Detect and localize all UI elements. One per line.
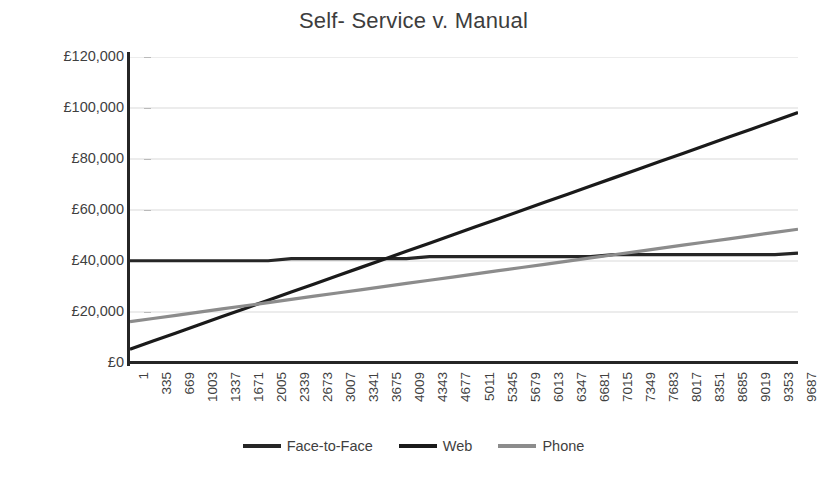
x-axis-tick-label-text: 7015 [621,372,634,402]
x-axis-tick-label-text: 9687 [805,372,818,402]
x-axis-tick-label: 6013 [552,370,565,400]
x-axis-tick-label-text: 1 [137,372,150,380]
x-axis-tick-label: 4343 [436,370,449,400]
x-axis-tick-label: 335 [160,370,173,393]
x-axis-tick-label: 9353 [782,370,795,400]
x-axis-tick-label: 8351 [713,370,726,400]
y-axis-tick-label: £80,000 [20,150,124,166]
x-axis-tick-label-text: 335 [160,372,173,395]
x-axis-tick-label-text: 3007 [344,372,357,402]
x-axis-tick-label: 9687 [805,370,818,400]
legend-label: Phone [542,438,584,454]
x-axis-tick-labels: 1335669100313371671200523392673300733413… [130,366,800,436]
x-axis-tick-label: 3675 [390,370,403,400]
x-axis-tick-label: 8017 [690,370,703,400]
x-axis-tick-label: 7683 [667,370,680,400]
x-axis-tick-label-text: 6013 [552,372,565,402]
x-axis-line [128,361,798,364]
x-axis-tick-label-text: 1337 [229,372,242,402]
y-axis-tick-label: £0 [20,354,124,370]
legend-item[interactable]: Face-to-Face [243,438,373,454]
y-axis-tick-label: £60,000 [20,201,124,217]
x-axis-tick-label-text: 8685 [736,372,749,402]
chart-title: Self- Service v. Manual [0,8,827,34]
y-axis-tick-label: £20,000 [20,303,124,319]
legend-swatch-icon [399,444,437,448]
y-axis-tick-label: £40,000 [20,252,124,268]
x-axis-tick-label-text: 6347 [575,372,588,402]
x-axis-tick-label-text: 7683 [667,372,680,402]
x-axis-tick-label-text: 9019 [759,372,772,402]
x-axis-tick-label: 2005 [275,370,288,400]
x-axis-tick-label: 7015 [621,370,634,400]
x-axis-tick-label-text: 3675 [390,372,403,402]
x-axis-tick-label-text: 1671 [252,372,265,402]
x-axis-tick-label: 4677 [459,370,472,400]
x-axis-tick-label: 5345 [506,370,519,400]
x-axis-tick-label-text: 2005 [275,372,288,402]
x-axis-tick-label: 2673 [321,370,334,400]
x-axis-tick-label-text: 3341 [367,372,380,402]
x-axis-tick-label-text: 4677 [459,372,472,402]
legend-swatch-icon [498,444,536,448]
x-axis-tick-label: 6347 [575,370,588,400]
x-axis-tick-label-text: 1003 [206,372,219,402]
series-line-face-to-face [130,253,798,261]
x-axis-tick-label: 1 [137,370,150,378]
x-axis-tick-label: 6681 [598,370,611,400]
legend-label: Web [443,438,473,454]
x-axis-tick-label-text: 4343 [436,372,449,402]
x-axis-tick-label-text: 6681 [598,372,611,402]
x-axis-tick-label: 1003 [206,370,219,400]
legend-item[interactable]: Phone [498,438,584,454]
x-axis-tick-label: 2339 [298,370,311,400]
x-axis-tick-label-text: 7349 [644,372,657,402]
x-axis-tick-label: 1337 [229,370,242,400]
x-axis-tick-label: 669 [183,370,196,393]
x-axis-tick-label-text: 9353 [782,372,795,402]
y-axis-tick-labels: £0£20,000£40,000£60,000£80,000£100,000£1… [20,0,124,486]
y-axis-tick-label: £120,000 [20,48,124,64]
x-axis-tick-label-text: 5011 [483,372,496,401]
x-axis-tick-label-text: 5345 [506,372,519,402]
x-axis-tick-label-text: 2339 [298,372,311,402]
x-axis-tick-label: 8685 [736,370,749,400]
chart-legend: Face-to-FaceWebPhone [0,438,827,454]
plot-svg [130,57,798,363]
legend-item[interactable]: Web [399,438,473,454]
legend-swatch-icon [243,444,281,448]
x-axis-tick-label: 5011 [483,370,496,399]
x-axis-tick-label-text: 4009 [413,372,426,402]
x-axis-tick-label-text: 5679 [529,372,542,402]
plot-area [130,57,798,363]
x-axis-tick-label: 1671 [252,370,265,400]
series-line-phone [130,229,798,321]
x-axis-tick-label: 4009 [413,370,426,400]
x-axis-tick-label: 5679 [529,370,542,400]
x-axis-tick-label: 9019 [759,370,772,400]
x-axis-tick-label-text: 2673 [321,372,334,402]
chart-container: Self- Service v. Manual £0£20,000£40,000… [0,0,827,486]
y-axis-tick-label: £100,000 [20,99,124,115]
x-axis-tick-label: 7349 [644,370,657,400]
x-axis-tick-label-text: 8351 [713,372,726,402]
series-line-web [130,113,798,350]
legend-label: Face-to-Face [287,438,373,454]
x-axis-tick-label: 3007 [344,370,357,400]
x-axis-tick-label-text: 8017 [690,372,703,402]
x-axis-tick-label-text: 669 [183,372,196,395]
x-axis-tick-label: 3341 [367,370,380,400]
